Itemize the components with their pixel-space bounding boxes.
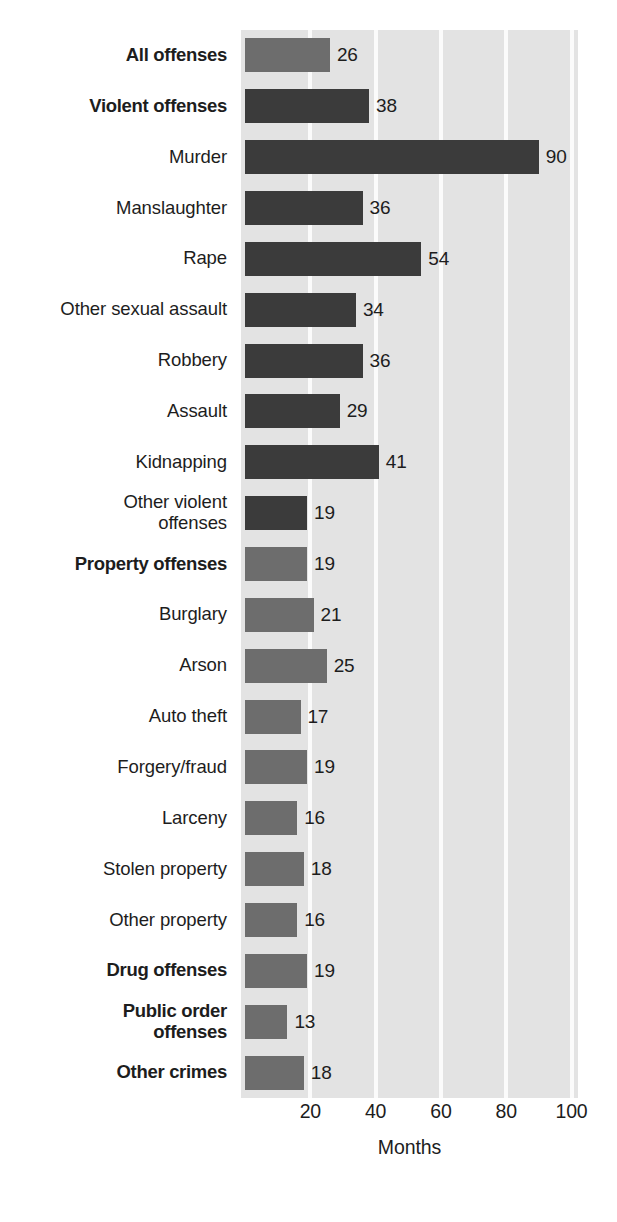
bar-label-other-sexual-assault: Other sexual assault [0, 299, 227, 320]
bar-label-violent-offenses: Violent offenses [0, 96, 227, 117]
bar-label-other-violent-offenses: Other violentoffenses [0, 492, 227, 533]
bar-value-label: 17 [308, 706, 329, 728]
bar-value-label: 19 [314, 553, 335, 575]
bar [245, 700, 301, 734]
bar-rows-container: All offenses26Violent offenses38Murder90… [0, 30, 617, 1098]
bar [245, 191, 363, 225]
bar-row: Drug offenses19 [0, 945, 617, 996]
bar [245, 89, 369, 123]
bar-label-drug-offenses: Drug offenses [0, 960, 227, 981]
bar-value-label: 19 [314, 756, 335, 778]
bar-row: Kidnapping41 [0, 437, 617, 488]
bar [245, 496, 307, 530]
bar-label-assault: Assault [0, 401, 227, 422]
bar-label-arson: Arson [0, 655, 227, 676]
bar [245, 852, 304, 886]
bar-label-murder: Murder [0, 147, 227, 168]
bar-value-label: 36 [370, 350, 391, 372]
bar-label-rape: Rape [0, 248, 227, 269]
bar [245, 140, 539, 174]
bar-row: Larceny16 [0, 793, 617, 844]
bar-row: Other crimes18 [0, 1047, 617, 1098]
bar-value-label: 21 [321, 604, 342, 626]
x-tick-20: 20 [300, 1100, 321, 1123]
bar [245, 598, 314, 632]
bar-label-larceny: Larceny [0, 808, 227, 829]
bar [245, 344, 363, 378]
bar-value-label: 26 [337, 44, 358, 66]
bar-label-forgery-fraud: Forgery/fraud [0, 757, 227, 778]
bar-value-label: 19 [314, 960, 335, 982]
bar-value-label: 54 [428, 248, 449, 270]
bar [245, 801, 297, 835]
x-tick-60: 60 [430, 1100, 451, 1123]
bar-label-kidnapping: Kidnapping [0, 452, 227, 473]
bar [245, 293, 356, 327]
bar [245, 394, 340, 428]
bar [245, 1056, 304, 1090]
bar-value-label: 18 [311, 858, 332, 880]
bar-row: Other sexual assault34 [0, 284, 617, 335]
bar-value-label: 18 [311, 1062, 332, 1084]
x-tick-100: 100 [556, 1100, 588, 1123]
bar-label-other-crimes: Other crimes [0, 1062, 227, 1083]
bar-row: Rape54 [0, 233, 617, 284]
bar-row: Assault29 [0, 386, 617, 437]
bar-label-auto-theft: Auto theft [0, 706, 227, 727]
bar-row: Burglary21 [0, 589, 617, 640]
bar-chart-figure: All offenses26Violent offenses38Murder90… [0, 0, 617, 1222]
bar-label-all-offenses: All offenses [0, 45, 227, 66]
bar-row: Robbery36 [0, 335, 617, 386]
bar-value-label: 34 [363, 299, 384, 321]
bar-row: All offenses26 [0, 30, 617, 81]
bar-row: Arson25 [0, 640, 617, 691]
bar-value-label: 36 [370, 197, 391, 219]
x-axis-title: Months [241, 1136, 578, 1159]
bar-row: Other violentoffenses19 [0, 488, 617, 539]
bar-label-stolen-property: Stolen property [0, 859, 227, 880]
bar-value-label: 41 [386, 451, 407, 473]
bar-label-property-offenses: Property offenses [0, 554, 227, 575]
bar [245, 954, 307, 988]
bar-row: Murder90 [0, 132, 617, 183]
bar-value-label: 19 [314, 502, 335, 524]
bar-value-label: 25 [334, 655, 355, 677]
bar-row: Other property16 [0, 895, 617, 946]
bar [245, 750, 307, 784]
bar [245, 1005, 287, 1039]
bar-row: Auto theft17 [0, 691, 617, 742]
bar-row: Forgery/fraud19 [0, 742, 617, 793]
bar-row: Manslaughter36 [0, 183, 617, 234]
bar-row: Property offenses19 [0, 539, 617, 590]
bar-row: Violent offenses38 [0, 81, 617, 132]
bar-label-robbery: Robbery [0, 350, 227, 371]
bar-row: Public orderoffenses13 [0, 996, 617, 1047]
bar-label-other-property: Other property [0, 910, 227, 931]
bar-value-label: 90 [546, 146, 567, 168]
bar-value-label: 13 [294, 1011, 315, 1033]
x-tick-40: 40 [365, 1100, 386, 1123]
bar-label-manslaughter: Manslaughter [0, 198, 227, 219]
bar [245, 649, 327, 683]
bar-value-label: 16 [304, 807, 325, 829]
bar-label-burglary: Burglary [0, 604, 227, 625]
bar [245, 445, 379, 479]
bar-value-label: 38 [376, 95, 397, 117]
x-axis-tick-labels: 20406080100 [0, 1100, 617, 1130]
bar-value-label: 16 [304, 909, 325, 931]
bar [245, 38, 330, 72]
bar [245, 903, 297, 937]
bar [245, 547, 307, 581]
bar [245, 242, 421, 276]
bar-label-public-order-offenses: Public orderoffenses [0, 1001, 227, 1042]
bar-row: Stolen property18 [0, 844, 617, 895]
x-tick-80: 80 [496, 1100, 517, 1123]
bar-value-label: 29 [347, 400, 368, 422]
